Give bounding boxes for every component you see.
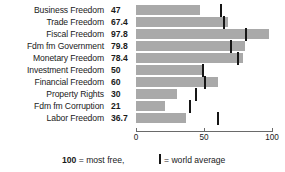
chart-row: Financial Freedom60 [0, 76, 285, 88]
scale-note: 100 = most free, [62, 150, 124, 170]
chart-rows: Business Freedom47Trade Freedom67.4Fisca… [0, 4, 285, 124]
chart-row-plot [136, 28, 272, 40]
chart-row-value: 50 [111, 64, 121, 76]
x-axis-tick [136, 128, 137, 132]
chart-row-label: Fiscal Freedom [4, 28, 104, 40]
world-average-marker [237, 52, 239, 65]
world-average-marker [220, 4, 222, 17]
chart-row-label: Fdm fm Government [4, 40, 104, 52]
world-average-marker [217, 112, 219, 125]
world-average-marker-icon [159, 154, 161, 164]
chart-row-label: Labor Freedom [4, 112, 104, 124]
chart-row-value: 30 [111, 88, 121, 100]
x-axis-tick-label: 100 [257, 133, 285, 143]
chart-row-value: 47 [111, 4, 121, 16]
x-axis-tick-label: 50 [189, 133, 219, 143]
x-axis-tick [204, 128, 205, 132]
world-average-marker [223, 16, 225, 29]
chart-row: Fiscal Freedom97.8 [0, 28, 285, 40]
world-average-marker [204, 76, 206, 89]
chart-row-value: 36.7 [111, 112, 128, 124]
chart-row-value: 21 [111, 100, 121, 112]
world-average-marker [202, 64, 204, 77]
chart-row-plot [136, 52, 272, 64]
chart-row-label: Investment Freedom [4, 64, 104, 76]
chart-bar [136, 101, 165, 111]
chart-row: Fdm fm Corruption21 [0, 100, 285, 112]
chart-row-value: 78.4 [111, 52, 128, 64]
chart-row-value: 60 [111, 76, 121, 88]
chart-row: Fdm fm Government79.8 [0, 40, 285, 52]
chart-row: Investment Freedom50 [0, 64, 285, 76]
world-average-marker [189, 100, 191, 113]
chart-row-label: Monetary Freedom [4, 52, 104, 64]
chart-bar [136, 17, 228, 27]
chart-row: Labor Freedom36.7 [0, 112, 285, 124]
chart-legend: 100 = most free, = world average [0, 150, 285, 170]
world-average-legend-label: = world average [164, 155, 225, 165]
chart-row: Monetary Freedom78.4 [0, 52, 285, 64]
chart-row-label: Property Rights [4, 88, 104, 100]
chart-row-plot [136, 4, 272, 16]
scale-note-text: = most free, [76, 155, 124, 165]
chart-bar [136, 53, 243, 63]
scale-note-max-value: 100 [62, 155, 76, 165]
world-average-marker [230, 40, 232, 53]
chart-bar [136, 5, 200, 15]
chart-row-plot [136, 100, 272, 112]
freedom-scores-bar-chart: Business Freedom47Trade Freedom67.4Fisca… [0, 0, 285, 172]
chart-row-label: Fdm fm Corruption [4, 100, 104, 112]
chart-row-label: Trade Freedom [4, 16, 104, 28]
x-axis [136, 131, 272, 132]
chart-row-plot [136, 88, 272, 100]
chart-row-plot [136, 40, 272, 52]
chart-row-value: 79.8 [111, 40, 128, 52]
chart-row-label: Business Freedom [4, 4, 104, 16]
chart-row-value: 97.8 [111, 28, 128, 40]
world-average-legend: = world average [159, 150, 225, 170]
world-average-marker [195, 88, 197, 101]
chart-row: Property Rights30 [0, 88, 285, 100]
chart-bar [136, 65, 204, 75]
chart-bar [136, 113, 186, 123]
chart-bar [136, 89, 177, 99]
x-axis-tick [272, 128, 273, 132]
world-average-marker [245, 28, 247, 41]
chart-bar [136, 41, 245, 51]
chart-row-plot [136, 16, 272, 28]
chart-row-plot [136, 64, 272, 76]
chart-row: Business Freedom47 [0, 4, 285, 16]
chart-row-label: Financial Freedom [4, 76, 104, 88]
chart-row-value: 67.4 [111, 16, 128, 28]
chart-row-plot [136, 112, 272, 124]
x-axis-tick-label: 0 [121, 133, 151, 143]
chart-bar [136, 29, 269, 39]
chart-row: Trade Freedom67.4 [0, 16, 285, 28]
chart-row-plot [136, 76, 272, 88]
